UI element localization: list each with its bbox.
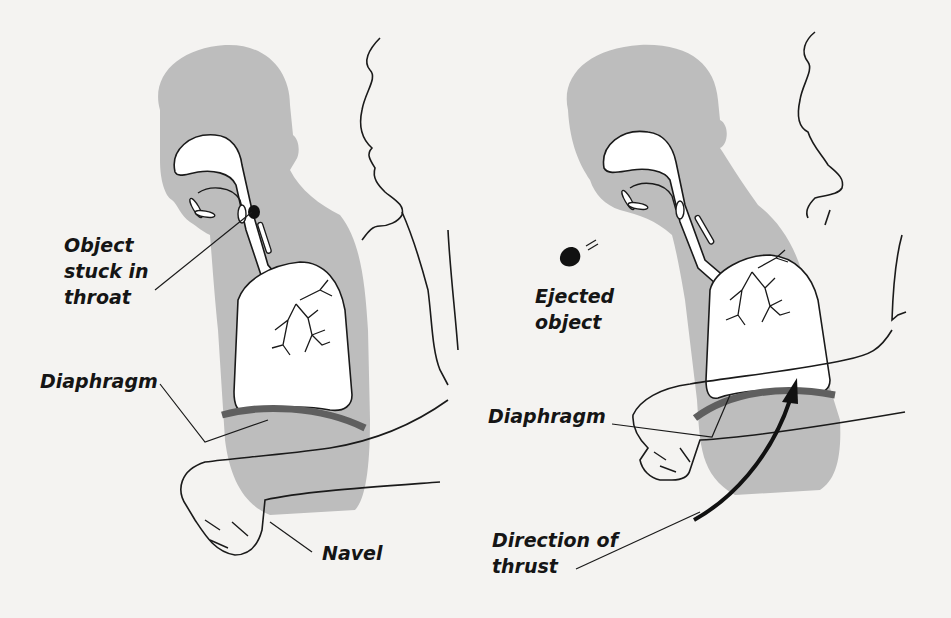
label-direction-of-thrust: Direction of thrust xyxy=(492,527,618,579)
rescuer-outline xyxy=(361,38,403,240)
panel-before xyxy=(155,38,458,555)
rescuer-back xyxy=(892,235,906,320)
larynx xyxy=(676,201,684,219)
label-ejected-object: Ejected object xyxy=(535,283,614,335)
label-line: Ejected xyxy=(535,283,614,309)
rescuer-fist xyxy=(654,448,690,472)
motion-lines xyxy=(586,240,598,250)
lung xyxy=(706,255,830,398)
label-line: stuck in xyxy=(64,258,148,284)
label-diaphragm-right: Diaphragm xyxy=(488,403,606,429)
label-navel: Navel xyxy=(322,540,383,566)
rescuer-fist xyxy=(205,520,248,548)
stuck-object xyxy=(248,205,260,219)
label-diaphragm-left: Diaphragm xyxy=(40,368,158,394)
leader-navel xyxy=(270,522,312,552)
lung xyxy=(234,262,352,412)
rescuer-back xyxy=(448,230,458,350)
label-line: thrust xyxy=(492,553,618,579)
label-object-stuck: Object stuck in throat xyxy=(64,232,148,310)
rescuer-outline xyxy=(798,32,842,218)
label-line: object xyxy=(535,309,614,335)
label-line: Object xyxy=(64,232,148,258)
ejected-object xyxy=(560,247,580,266)
rescuer-shoulder xyxy=(825,210,830,225)
label-line: Direction of xyxy=(492,527,618,553)
label-line: throat xyxy=(64,284,148,310)
rescuer-shoulder xyxy=(402,212,448,385)
